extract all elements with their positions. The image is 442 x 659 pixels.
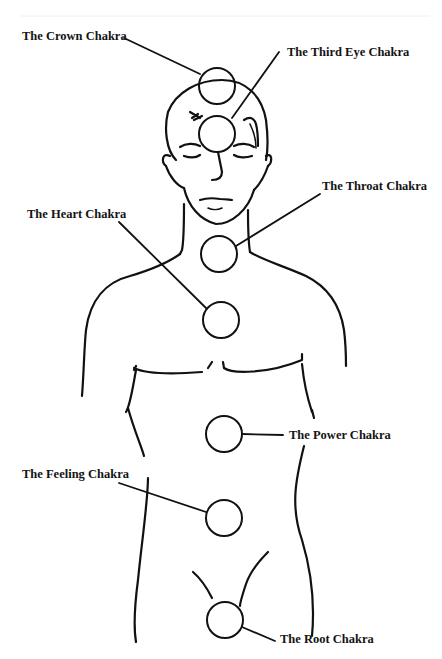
- label-power-chakra: The Power Chakra: [289, 428, 391, 442]
- leader-root: [242, 627, 275, 641]
- root-chakra-circle: [207, 602, 243, 638]
- heart-chakra-circle: [203, 302, 239, 338]
- leader-third-eye: [232, 52, 279, 118]
- label-feeling-chakra: The Feeling Chakra: [22, 467, 129, 481]
- label-heart-chakra: The Heart Chakra: [27, 207, 126, 221]
- label-crown-chakra: The Crown Chakra: [22, 29, 127, 43]
- leader-heart: [119, 222, 206, 308]
- leader-power: [242, 434, 283, 435]
- leader-crown: [124, 38, 200, 74]
- chakra-circles: [199, 68, 243, 638]
- chakra-diagram: The Crown Chakra The Third Eye Chakra Th…: [0, 0, 442, 659]
- figure-drawing: [0, 0, 442, 659]
- label-throat-chakra: The Throat Chakra: [322, 179, 427, 193]
- chest: [134, 354, 302, 373]
- crown-chakra-circle: [199, 68, 235, 104]
- feeling-chakra-circle: [206, 500, 242, 536]
- third-eye-chakra-circle: [199, 116, 235, 152]
- power-chakra-circle: [206, 416, 242, 452]
- label-third-eye-chakra: The Third Eye Chakra: [287, 45, 409, 59]
- throat-chakra-circle: [201, 236, 237, 272]
- leader-feeling: [119, 483, 206, 512]
- label-root-chakra: The Root Chakra: [280, 632, 374, 646]
- groin-lines: [193, 552, 268, 606]
